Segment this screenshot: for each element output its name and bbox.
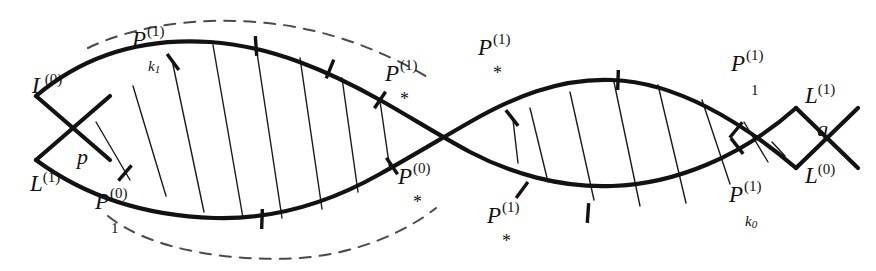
label-p-k1-base: P (132, 27, 146, 52)
label-p-k1: P (1) k1 (132, 28, 146, 51)
tick-mark (516, 182, 528, 198)
label-point-q: q (817, 118, 828, 140)
label-p-1-upper-right-sub: 1 (751, 83, 759, 98)
label-p-star-lower-mid: P (0) * (398, 165, 412, 188)
label-point-p: p (77, 146, 88, 168)
label-point-q-base: q (817, 116, 828, 141)
label-p-k0-base: P (729, 182, 743, 207)
diagram-canvas: L(0) L(1) p P (1) k1 P (0) 1 P (1) * P (… (0, 0, 876, 271)
label-left-lower-line-sup: (1) (43, 169, 61, 185)
label-p-1-lower-left: P (0) 1 (95, 190, 109, 213)
label-p-star-upper-right: P (1) * (478, 36, 492, 59)
label-p-star-lower-mid-base: P (398, 164, 412, 189)
label-p-star-upper-mid-sup: (1) (400, 58, 418, 73)
label-p-k1-sub: k1 (148, 59, 160, 75)
label-p-star-upper-mid: P (1) * (385, 62, 399, 85)
label-p-star-lower-mid-sub: * (413, 193, 422, 211)
label-p-star-lower-right-sup: (1) (502, 200, 520, 215)
label-point-p-base: p (77, 144, 88, 169)
label-p-1-upper-right-base: P (731, 51, 745, 76)
label-left-upper-line-base: L (32, 73, 45, 98)
hatch-line (133, 86, 166, 196)
hatch-line (172, 60, 204, 212)
label-right-lower-line: L(0) (805, 162, 835, 187)
tick-mark (255, 36, 256, 56)
label-p-star-upper-right-sup: (1) (493, 32, 511, 47)
hatch-line (342, 78, 358, 192)
label-p-k0-sup: (1) (744, 179, 762, 194)
label-right-upper-line: L(1) (805, 82, 835, 107)
label-p-k1-sup: (1) (147, 24, 165, 39)
label-p-1-upper-right-sup: (1) (746, 48, 764, 63)
label-p-1-lower-left-sup: (0) (110, 186, 128, 201)
label-right-lower-line-base: L (805, 163, 818, 188)
label-p-star-upper-right-base: P (478, 35, 492, 60)
hatch-line (530, 108, 548, 182)
label-right-upper-line-base: L (805, 83, 818, 108)
label-p-k0: P (1) k0 (729, 183, 743, 206)
label-p-1-lower-left-base: P (95, 189, 109, 214)
hatch-line (213, 45, 243, 218)
label-p-star-upper-mid-base: P (385, 61, 399, 86)
label-p-1-upper-right: P (1) 1 (731, 52, 745, 75)
label-p-star-lower-mid-sup: (0) (413, 161, 431, 176)
label-right-lower-line-sup: (0) (818, 161, 836, 177)
label-left-lower-line: L(1) (30, 170, 60, 195)
label-p-star-upper-mid-sub: * (400, 90, 409, 108)
label-p-star-lower-right: P (1) * (487, 204, 501, 227)
tick-mark (587, 203, 588, 223)
hatch-line (658, 85, 686, 203)
label-p-star-lower-right-base: P (487, 203, 501, 228)
tick-mark (506, 110, 518, 126)
label-p-star-upper-right-sub: * (493, 64, 502, 82)
label-p-star-lower-right-sub: * (502, 232, 511, 250)
label-left-upper-line-sup: (0) (45, 71, 63, 87)
label-right-upper-line-sup: (1) (818, 81, 836, 97)
hatch-line (256, 46, 282, 218)
tick-mark (618, 70, 619, 90)
label-left-upper-line: L(0) (32, 72, 62, 97)
tick-mark (262, 209, 263, 229)
label-p-1-lower-left-sub: 1 (111, 221, 119, 236)
tick-marks-group (118, 36, 743, 229)
hatch-line (300, 58, 322, 209)
label-left-lower-line-base: L (30, 171, 43, 196)
label-p-k0-sub: k0 (745, 214, 757, 230)
